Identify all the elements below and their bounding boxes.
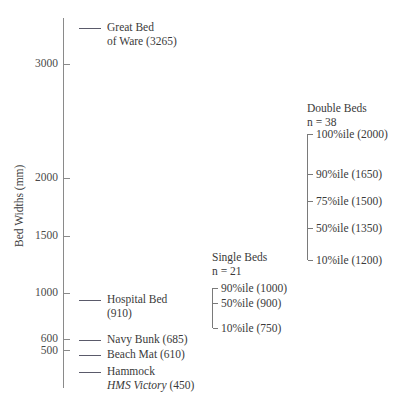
marker-label-hospital-bed: Hospital Bed (910) <box>107 293 167 320</box>
marker-label-line2: (910) <box>107 307 167 321</box>
bracket-tick-single-50ile <box>213 303 218 304</box>
group-n-double-beds: n = 38 <box>307 115 367 129</box>
bed-widths-chart: Bed Widths (mm) 3000 2000 1500 1000 600 … <box>0 0 406 412</box>
bracket-tick-double-10ile <box>308 260 313 261</box>
marker-label-navy-bunk: Navy Bunk (685) <box>107 333 188 347</box>
y-tick-3000 <box>64 64 70 65</box>
bracket-label-double-100ile: 100%ile (2000) <box>316 129 388 141</box>
marker-line-hospital-bed <box>79 300 101 301</box>
bracket-label-single-50ile: 50%ile (900) <box>221 298 281 310</box>
marker-label-line1: Great Bed <box>107 21 154 33</box>
bracket-label-double-90ile: 90%ile (1650) <box>316 169 382 181</box>
marker-label-line1: Navy Bunk (685) <box>107 333 188 345</box>
group-title-double-beds: Double Beds <box>307 102 367 114</box>
marker-line-beach-mat <box>79 355 101 356</box>
y-tick-label-600: 600 <box>0 333 58 345</box>
marker-line-great-bed-of-ware <box>79 28 101 29</box>
y-tick-label-1000: 1000 <box>0 287 58 299</box>
group-title-single-beds: Single Beds <box>212 251 267 263</box>
marker-label-line2: HMS Victory (450) <box>107 379 194 393</box>
y-tick-1000 <box>64 293 70 294</box>
marker-label-line1: Hammock <box>107 365 155 377</box>
y-tick-label-500: 500 <box>0 345 58 357</box>
y-tick-label-2000: 2000 <box>0 172 58 184</box>
group-n-single-beds: n = 21 <box>212 264 267 278</box>
y-tick-500 <box>64 350 70 351</box>
marker-label-line2: of Ware (3265) <box>107 35 177 49</box>
bracket-label-single-10ile: 10%ile (750) <box>221 323 281 335</box>
hms-victory-value: (450) <box>167 379 195 391</box>
group-header-double-beds: Double Beds n = 38 <box>307 101 367 129</box>
group-header-single-beds: Single Beds n = 21 <box>212 250 267 278</box>
bracket-label-double-50ile: 50%ile (1350) <box>316 223 382 235</box>
marker-label-line1: Hospital Bed <box>107 293 167 305</box>
bracket-spine-double-beds <box>307 134 308 260</box>
y-tick-label-3000: 3000 <box>0 58 58 70</box>
marker-label-line1: Beach Mat (610) <box>107 348 185 360</box>
bracket-tick-double-50ile <box>308 228 313 229</box>
marker-line-navy-bunk <box>79 340 101 341</box>
hms-victory-ship-name: HMS Victory <box>107 379 167 391</box>
y-tick-2000 <box>64 178 70 179</box>
marker-line-hammock <box>79 372 101 373</box>
marker-label-hammock: Hammock HMS Victory (450) <box>107 365 194 392</box>
y-axis-line <box>63 18 64 388</box>
bracket-tick-single-90ile <box>213 288 218 289</box>
bracket-tick-double-100ile <box>308 134 313 135</box>
y-tick-600 <box>64 339 70 340</box>
y-tick-1500 <box>64 236 70 237</box>
marker-label-beach-mat: Beach Mat (610) <box>107 348 185 362</box>
bracket-label-single-90ile: 90%ile (1000) <box>221 283 287 295</box>
marker-label-great-bed-of-ware: Great Bed of Ware (3265) <box>107 21 177 48</box>
bracket-label-double-10ile: 10%ile (1200) <box>316 255 382 267</box>
y-tick-label-1500: 1500 <box>0 230 58 242</box>
bracket-tick-double-90ile <box>308 174 313 175</box>
bracket-tick-single-10ile <box>213 328 218 329</box>
bracket-spine-single-beds <box>212 288 213 328</box>
bracket-label-double-75ile: 75%ile (1500) <box>316 196 382 208</box>
bracket-tick-double-75ile <box>308 201 313 202</box>
